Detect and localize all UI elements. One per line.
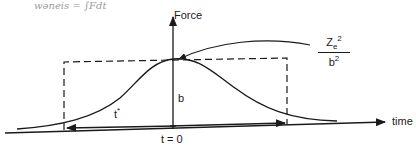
handwritten-note: wǝneis = ∫Fdt	[34, 0, 106, 11]
numerator-sub: e	[333, 42, 337, 51]
peak-expression-denominator: b2	[318, 53, 350, 68]
duration-label: t*	[114, 106, 120, 120]
peak-pointer-arrow	[179, 41, 310, 59]
peak-expression: Ze2 b2	[318, 34, 350, 68]
time-axis-label: time	[392, 115, 413, 127]
numerator-sup: 2	[337, 34, 341, 43]
origin-label: t = 0	[161, 133, 183, 145]
numerator-base: Z	[326, 36, 333, 48]
impulse-diagram	[0, 0, 416, 146]
impact-parameter-label: b	[178, 92, 184, 104]
force-axis-label: Force	[174, 9, 202, 21]
peak-expression-numerator: Ze2	[318, 34, 350, 53]
duration-arrow-left	[67, 126, 176, 128]
dashed-rectangle	[64, 58, 287, 130]
duration-label-sup: *	[117, 106, 120, 115]
force-curve	[17, 59, 337, 129]
denominator-sup: 2	[335, 54, 339, 63]
